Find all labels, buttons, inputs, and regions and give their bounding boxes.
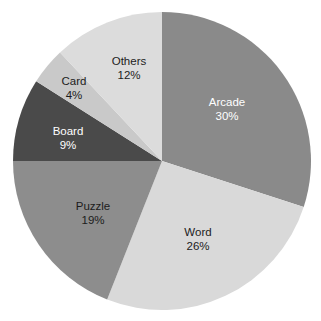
- slice-percentage-value: 30%: [215, 110, 238, 122]
- slice-percentage-value: 26%: [186, 240, 209, 252]
- slice-percentage-value: 12%: [117, 69, 140, 81]
- pie-chart-figure: Arcade30%Word26%Puzzle19%Board9%Card4%Ot…: [0, 0, 321, 321]
- slice-category-name: Board: [53, 125, 84, 137]
- pie-slices-group: [13, 12, 311, 310]
- slice-category-name: Puzzle: [76, 200, 111, 212]
- pie-chart-svg: Arcade30%Word26%Puzzle19%Board9%Card4%Ot…: [0, 0, 321, 321]
- slice-category-name: Word: [184, 226, 211, 238]
- slice-category-name: Card: [62, 75, 87, 87]
- slice-percentage-value: 9%: [60, 139, 77, 151]
- slice-category-name: Arcade: [209, 96, 245, 108]
- slice-category-name: Others: [112, 55, 147, 67]
- slice-percentage-value: 19%: [81, 214, 104, 226]
- slice-percentage-value: 4%: [66, 89, 83, 101]
